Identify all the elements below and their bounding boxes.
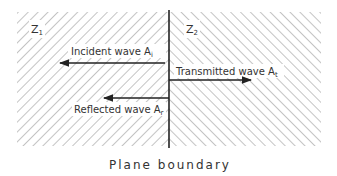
wave-boundary-diagram: Z1 Z2 Incident wave Ai Transmitted wave … <box>0 0 337 176</box>
diagram-caption: Plane boundary <box>109 158 231 172</box>
